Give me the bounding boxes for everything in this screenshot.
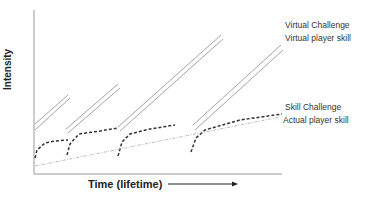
series-skill-challenge: [67, 128, 118, 155]
x-axis-label: Time (lifetime): [88, 178, 162, 190]
series-skill-challenge: [118, 125, 175, 156]
series-virtual-player-skill: [120, 39, 223, 131]
arrow-head-icon: [232, 182, 238, 187]
series-skill-challenge: [191, 114, 282, 152]
series-skill-challenge: [35, 140, 68, 158]
series-layer: [35, 35, 283, 166]
label-virtual-player-skill: Virtual player skill: [285, 33, 351, 43]
chart-canvas: [0, 0, 365, 202]
label-skill-challenge: Skill Challenge: [285, 102, 341, 112]
series-virtual-player-skill: [195, 50, 283, 130]
label-virtual-challenge: Virtual Challenge: [285, 20, 350, 30]
series-virtual-challenge: [193, 45, 281, 125]
y-axis-label: Intensity: [2, 30, 13, 90]
series-virtual-player-skill: [35, 98, 70, 130]
label-actual-player-skill: Actual player skill: [283, 115, 349, 125]
series-virtual-player-skill: [68, 88, 120, 133]
series-virtual-challenge: [35, 95, 68, 124]
series-virtual-challenge: [66, 84, 118, 129]
